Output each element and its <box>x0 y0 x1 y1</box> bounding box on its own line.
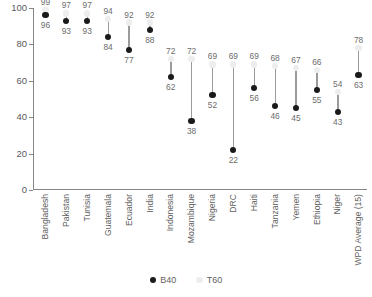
value-label-t60: 69 <box>229 52 238 60</box>
data-point-t60 <box>293 65 299 71</box>
data-point-b40 <box>147 27 153 33</box>
data-point-t60 <box>168 56 174 62</box>
value-label-t60: 97 <box>83 1 92 9</box>
y-tick-label: 40 <box>0 112 27 122</box>
x-tick-label: Bangladesh <box>38 194 52 268</box>
y-tick-label: 20 <box>0 149 27 159</box>
data-point-b40 <box>84 18 90 24</box>
chart-container: 020406080100 999697939793948492779288726… <box>0 0 372 297</box>
connector-stem <box>295 68 296 108</box>
x-tick-label-text: Ethiopia <box>313 194 322 225</box>
data-point-b40 <box>63 18 69 24</box>
connector-stem <box>128 23 129 50</box>
data-point-t60 <box>84 10 90 16</box>
value-label-t60: 72 <box>166 47 175 55</box>
x-tick-label: India <box>143 194 157 268</box>
x-tick-label-text: Nigeria <box>208 194 217 221</box>
connector-stem <box>358 48 359 75</box>
x-tick-label-text: Guatemala <box>104 194 113 236</box>
value-label-t60: 92 <box>145 11 154 19</box>
connector-stem <box>212 64 213 95</box>
legend-label: B40 <box>160 275 176 285</box>
value-label-b40: 62 <box>166 83 175 91</box>
data-point-b40 <box>105 34 111 40</box>
data-point-t60 <box>272 63 278 69</box>
value-label-t60: 69 <box>208 52 217 60</box>
data-point-t60 <box>314 67 320 73</box>
y-axis-line <box>33 8 34 190</box>
x-tick-label: Ethiopia <box>310 194 324 268</box>
x-tick-label: Guatemala <box>101 194 115 268</box>
value-label-t60: 99 <box>41 0 50 6</box>
data-point-b40 <box>293 105 299 111</box>
value-label-t60: 94 <box>103 7 112 15</box>
value-label-b40: 38 <box>187 127 196 135</box>
legend-item[interactable]: T60 <box>196 275 222 285</box>
connector-stem <box>275 66 276 106</box>
value-label-b40: 55 <box>312 96 321 104</box>
value-label-b40: 96 <box>41 21 50 29</box>
value-label-b40: 46 <box>270 112 279 120</box>
x-tick-label-text: DRC <box>229 194 238 213</box>
y-tick-mark <box>29 44 33 45</box>
x-axis-category-labels: BangladeshPakistanTunisiaGuatemalaEcuado… <box>33 192 367 270</box>
value-label-b40: 88 <box>145 36 154 44</box>
data-point-b40 <box>126 47 132 53</box>
data-point-t60 <box>209 61 215 67</box>
value-label-b40: 93 <box>62 27 71 35</box>
data-point-b40 <box>168 74 174 80</box>
value-label-b40: 45 <box>291 114 300 122</box>
y-tick-label: 80 <box>0 40 27 50</box>
x-axis-line <box>33 189 367 190</box>
value-label-t60: 92 <box>124 11 133 19</box>
value-label-b40: 43 <box>333 118 342 126</box>
data-point-b40 <box>335 109 341 115</box>
y-tick-label: 0 <box>0 185 27 195</box>
data-point-t60 <box>126 19 132 25</box>
value-label-b40: 22 <box>229 156 238 164</box>
plot-area: 020406080100 999697939793948492779288726… <box>33 8 367 190</box>
value-label-t60: 78 <box>354 36 363 44</box>
x-tick-label-text: Ecuador <box>125 194 134 226</box>
x-tick-label-text: Haiti <box>250 194 259 211</box>
x-tick-label: Tanzania <box>268 194 282 268</box>
data-point-b40 <box>209 92 215 98</box>
legend-item[interactable]: B40 <box>150 275 176 285</box>
data-point-t60 <box>105 16 111 22</box>
x-tick-label: Yemen <box>289 194 303 268</box>
data-point-b40 <box>251 85 257 91</box>
chart-legend: B40T60 <box>0 275 372 285</box>
x-tick-label: Haiti <box>247 194 261 268</box>
x-tick-label-text: Yemen <box>292 194 301 220</box>
x-tick-label: Tunisia <box>80 194 94 268</box>
data-point-t60 <box>63 10 69 16</box>
value-label-t60: 69 <box>250 52 259 60</box>
x-tick-label-text: Tanzania <box>271 194 280 228</box>
value-label-b40: 77 <box>124 56 133 64</box>
x-tick-label-text: Pakistan <box>62 194 71 227</box>
value-label-t60: 72 <box>187 47 196 55</box>
x-tick-label: DRC <box>226 194 240 268</box>
connector-stem <box>233 64 234 150</box>
y-tick-mark <box>29 81 33 82</box>
x-tick-label-text: Bangladesh <box>41 194 50 239</box>
y-tick-mark <box>29 190 33 191</box>
x-tick-label: Pakistan <box>59 194 73 268</box>
value-label-b40: 56 <box>250 94 259 102</box>
value-label-t60: 66 <box>312 58 321 66</box>
data-point-b40 <box>230 147 236 153</box>
value-label-t60: 54 <box>333 80 342 88</box>
data-point-b40 <box>314 87 320 93</box>
y-tick-label: 100 <box>0 3 27 13</box>
data-point-b40 <box>188 118 194 124</box>
y-tick-mark <box>29 154 33 155</box>
x-tick-label: WPD Average (15) <box>352 194 366 268</box>
x-tick-label: Indonesia <box>164 194 178 268</box>
legend-marker-icon <box>196 277 202 283</box>
x-tick-label: Nigeria <box>205 194 219 268</box>
legend-label: T60 <box>207 275 223 285</box>
data-point-t60 <box>147 19 153 25</box>
x-tick-label: Ecuador <box>122 194 136 268</box>
data-point-t60 <box>251 61 257 67</box>
legend-marker-icon <box>150 277 156 283</box>
